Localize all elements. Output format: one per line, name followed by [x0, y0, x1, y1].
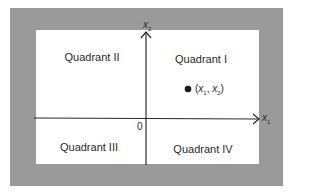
- x2-axis-label: x2: [143, 19, 151, 32]
- quadrant-ii-label: Quadrant II: [64, 51, 119, 63]
- point-label: (x1, x2): [195, 83, 224, 96]
- x1-axis-label: x1: [262, 112, 270, 125]
- point-marker: [185, 86, 192, 93]
- quadrant-iii-label: Quadrant III: [60, 141, 118, 153]
- origin-label: 0: [137, 121, 143, 132]
- quadrant-iv-label: Quadrant IV: [173, 143, 232, 155]
- quadrant-i-label: Quadrant I: [175, 53, 227, 65]
